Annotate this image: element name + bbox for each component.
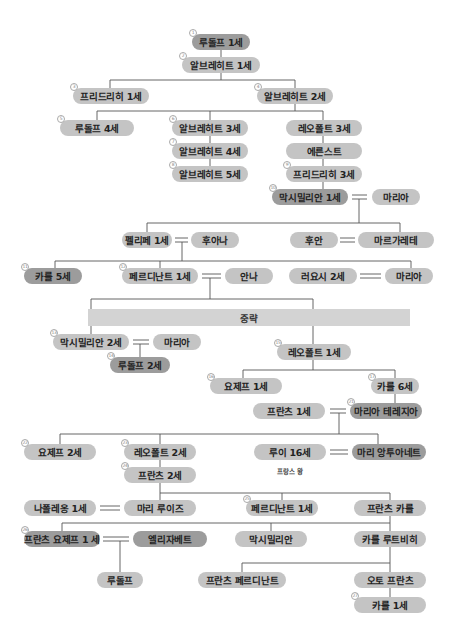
person-name: 나폴레옹 1세 xyxy=(34,501,87,515)
generation-number-badge: 4 xyxy=(254,83,262,91)
person-name: 펠리페 1세 xyxy=(125,233,169,247)
person-node: 카를 5세11 xyxy=(24,268,82,284)
person-node: 막시밀리안 xyxy=(235,531,307,547)
generation-number-badge: 22 xyxy=(21,439,29,447)
generation-number-badge: 24 xyxy=(121,462,129,470)
generation-number-badge: 25 xyxy=(243,495,251,503)
generation-number-badge: 27 xyxy=(351,592,359,600)
person-name: 알브레히트 4세 xyxy=(179,144,241,158)
person-node: 에른스트 xyxy=(286,143,362,159)
person-name: 요제프 2세 xyxy=(38,445,82,459)
person-name: 레오폴트 2세 xyxy=(134,445,187,459)
person-node: 페르디난트 1세12 xyxy=(122,268,198,284)
person-name: 프리드리히 1세 xyxy=(80,89,142,103)
generation-number-badge: 14 xyxy=(107,352,115,360)
person-node: 카를 1세27 xyxy=(354,597,426,613)
person-node: 프란츠 카를 xyxy=(354,500,426,516)
person-name: 후안 xyxy=(305,233,322,247)
person-name: 루돌프 1세 xyxy=(199,35,243,49)
person-node: 루돌프 2세14 xyxy=(110,357,170,373)
generation-number-badge: 17 xyxy=(368,373,376,381)
person-node: 알브레히트 4세7 xyxy=(172,143,248,159)
person-node: 마리 루이즈 xyxy=(124,500,196,516)
person-node: 러요시 2세 xyxy=(289,268,357,284)
generation-number-badge: 26 xyxy=(21,526,29,534)
person-name: 카를 5세 xyxy=(35,269,70,283)
generation-number-badge: 13 xyxy=(50,329,58,337)
person-name: 카를 6세 xyxy=(377,379,412,393)
person-node: 펠리페 1세 xyxy=(122,232,172,248)
generation-number-badge: 21 xyxy=(347,398,355,406)
person-node: 프리드리히 3세9 xyxy=(286,166,362,182)
person-node: 레오폴트 3세 xyxy=(286,120,362,136)
person-name: 루돌프 4세 xyxy=(75,121,119,135)
generation-number-badge: 15 xyxy=(274,339,282,347)
person-node: 마리아 테레지아21 xyxy=(350,403,422,419)
person-node: 나폴레옹 1세 xyxy=(24,500,96,516)
generation-number-badge: 12 xyxy=(119,263,127,271)
generation-number-badge: 11 xyxy=(21,263,29,271)
person-name: 페르디난트 1세 xyxy=(251,501,313,515)
person-name: 알브레히트 1세 xyxy=(190,58,252,72)
person-node: 루돌프 xyxy=(97,572,143,588)
person-node: 마리 앙투아네트 xyxy=(352,444,426,460)
person-name: 레오폴트 1세 xyxy=(288,345,341,359)
person-node: 레오폴트 2세23 xyxy=(124,444,196,460)
person-name: 프란츠 페르디난트 xyxy=(206,573,279,587)
generation-number-badge: 6 xyxy=(169,115,177,123)
person-node: 알브레히트 3세6 xyxy=(172,120,248,136)
person-node: 카를 6세17 xyxy=(371,378,419,394)
person-name: 프리드리히 3세 xyxy=(293,167,355,181)
person-name: 요제프 1세 xyxy=(224,379,268,393)
person-node: 루돌프 1세1 xyxy=(192,34,250,50)
person-node: 알브레히트 2세4 xyxy=(257,88,333,104)
person-node: 후안 xyxy=(290,232,338,248)
person-name: 오토 프란츠 xyxy=(367,573,414,587)
generation-number-badge: 9 xyxy=(283,161,291,169)
person-name: 마리아 xyxy=(396,269,422,283)
generation-number-badge: 5 xyxy=(57,115,65,123)
person-node: 마리아 xyxy=(385,268,433,284)
person-name: 프란츠 카를 xyxy=(367,501,414,515)
person-node: 프란츠 1세 xyxy=(253,403,325,419)
generation-number-badge: 3 xyxy=(70,83,78,91)
person-node: 요제프 1세16 xyxy=(210,378,282,394)
person-name: 루돌프 2세 xyxy=(118,358,162,372)
person-name: 막시밀리안 1세 xyxy=(279,190,341,204)
generation-number-badge: 7 xyxy=(169,138,177,146)
person-name: 프란츠 1세 xyxy=(267,404,311,418)
generation-number-badge: 1 xyxy=(189,29,197,37)
person-name: 레오폴트 3세 xyxy=(298,121,351,135)
person-name: 알브레히트 5세 xyxy=(179,167,241,181)
omission-banner: 중략 xyxy=(88,309,410,326)
generation-number-badge: 8 xyxy=(169,161,177,169)
title-note: 프랑스 왕 xyxy=(277,466,303,476)
person-name: 안나 xyxy=(240,269,257,283)
person-name: 막시밀리안 xyxy=(249,532,293,546)
person-name: 프란츠 요제프 1 세 xyxy=(24,532,100,546)
generation-number-badge: 23 xyxy=(121,439,129,447)
person-name: 알브레히트 3세 xyxy=(179,121,241,135)
person-name: 러요시 2세 xyxy=(301,269,345,283)
person-name: 루돌프 xyxy=(107,573,133,587)
person-name: 알브레히트 2세 xyxy=(264,89,326,103)
person-node: 알브레히트 1세2 xyxy=(182,57,260,73)
family-tree-diagram: 중략 프랑스 왕 루돌프 1세1알브레히트 1세2프리드리히 1세3알브레히트 … xyxy=(0,0,452,637)
person-node: 페르디난트 1세25 xyxy=(246,500,318,516)
person-node: 루이 16세 xyxy=(254,444,326,460)
person-name: 마리아 테레지아 xyxy=(354,404,418,418)
generation-number-badge: 16 xyxy=(207,373,215,381)
person-node: 마리아 xyxy=(372,189,420,205)
person-name: 막시밀리안 2세 xyxy=(60,335,122,349)
person-name: 루이 16세 xyxy=(269,445,311,459)
person-node: 막시밀리안 1세10 xyxy=(272,189,348,205)
person-node: 마리아 xyxy=(153,334,201,350)
person-node: 카를 루트비히 xyxy=(354,531,426,547)
generation-number-badge: 10 xyxy=(269,184,277,192)
person-node: 프란츠 2세24 xyxy=(124,467,196,483)
person-node: 오토 프란츠 xyxy=(354,572,426,588)
person-node: 프란츠 요제프 1 세26 xyxy=(24,531,100,547)
person-name: 엘리자베트 xyxy=(148,532,192,546)
person-name: 에른스트 xyxy=(307,144,342,158)
person-name: 페르디난트 1세 xyxy=(129,269,191,283)
